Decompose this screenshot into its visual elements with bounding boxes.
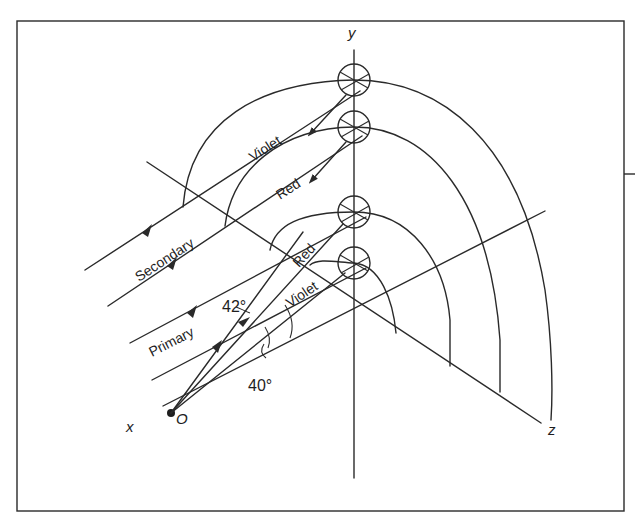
observer-label: O — [176, 410, 188, 427]
axes — [147, 50, 545, 478]
figure-frame — [17, 21, 624, 511]
angle-42-label: 42° — [222, 298, 246, 315]
arc-secondary-red — [225, 127, 500, 392]
ray-1-arrow-icon — [142, 224, 152, 237]
y-axis-label: y — [347, 24, 357, 41]
primary-violet-label: Violet — [283, 278, 321, 311]
arc-secondary-violet — [183, 80, 552, 420]
arc-primary-violet — [310, 261, 396, 333]
angle-40-label: 40° — [248, 377, 272, 394]
secondary-violet-label: Violet — [246, 132, 284, 164]
primary-label: Primary — [146, 324, 196, 360]
secondary-label: Secondary — [132, 235, 197, 285]
ray-3 — [130, 217, 366, 343]
secondary-red-exit — [312, 142, 346, 180]
sun-rays — [85, 91, 366, 380]
rainbow-diagram: y x z O — [0, 0, 635, 522]
z-axis-label: z — [547, 421, 556, 438]
ray-1 — [85, 91, 360, 270]
ray-4 — [152, 268, 366, 380]
x-axis-label: x — [125, 418, 134, 435]
rainbow-arcs — [183, 80, 552, 420]
